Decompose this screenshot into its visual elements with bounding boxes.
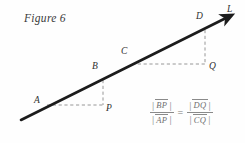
point-label-q: Q xyxy=(209,62,216,72)
right-numerator: |DQ| xyxy=(187,99,212,113)
segment-bp: BP xyxy=(155,99,168,111)
segment-cq: CQ xyxy=(193,114,208,126)
right-denominator: |CQ| xyxy=(187,113,212,126)
figure-container: Figure 6 A B C D P Q L |BP| |AP| xyxy=(0,0,245,143)
abs-bar-close: | xyxy=(169,113,171,125)
point-label-a: A xyxy=(34,96,40,106)
point-label-d: D xyxy=(196,12,203,22)
segment-ap: AP xyxy=(155,114,168,126)
point-label-p: P xyxy=(106,104,112,114)
abs-bar-open: | xyxy=(189,99,191,111)
right-fraction: |DQ| |CQ| xyxy=(187,99,212,126)
abs-bar-open: | xyxy=(152,113,154,125)
abs-bar-close: | xyxy=(209,99,211,111)
left-fraction: |BP| |AP| xyxy=(150,99,174,126)
point-label-b: B xyxy=(92,62,98,72)
left-numerator: |BP| xyxy=(150,99,174,113)
equals-sign: = xyxy=(178,107,184,118)
abs-bar-close: | xyxy=(208,113,210,125)
abs-bar-open: | xyxy=(152,99,154,111)
abs-bar-close: | xyxy=(169,99,171,111)
abs-bar-open: | xyxy=(189,113,191,125)
left-denominator: |AP| xyxy=(150,113,174,126)
line-label-l: L xyxy=(227,5,232,15)
point-label-c: C xyxy=(121,47,127,57)
ratio-formula: |BP| |AP| = |DQ| |CQ| xyxy=(150,99,213,126)
segment-dq: DQ xyxy=(192,99,207,111)
